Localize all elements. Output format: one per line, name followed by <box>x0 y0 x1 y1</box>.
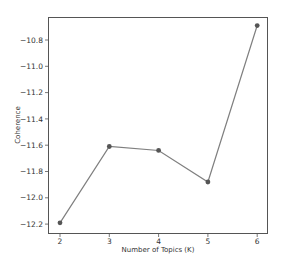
y-tick-label: −12.0 <box>20 193 43 202</box>
line-chart: −10.8−11.0−11.2−11.4−11.6−11.8−12.0−12.2… <box>0 0 283 264</box>
y-tick-label: −11.2 <box>20 88 43 97</box>
y-axis-label: Coherence <box>14 106 22 144</box>
y-tick-label: −11.4 <box>20 115 43 124</box>
x-tick-label: 2 <box>58 237 63 246</box>
x-tick-label: 3 <box>107 237 112 246</box>
x-tick-label: 6 <box>255 237 260 246</box>
x-tick-label: 5 <box>206 237 211 246</box>
y-tick-label: −12.2 <box>20 220 43 229</box>
data-point <box>156 148 161 153</box>
x-tick-label: 4 <box>156 237 161 246</box>
data-point <box>206 180 211 185</box>
y-tick-label: −11.8 <box>20 167 43 176</box>
plot-frame <box>49 18 268 234</box>
data-point <box>255 23 260 28</box>
coherence-line <box>60 26 257 223</box>
y-tick-label: −11.6 <box>20 141 43 150</box>
x-axis-ticks: 23456 <box>58 234 260 247</box>
x-axis-label: Number of Topics (K) <box>122 246 195 254</box>
data-point <box>58 220 63 225</box>
data-point <box>107 144 112 149</box>
y-tick-label: −11.0 <box>20 62 43 71</box>
y-axis-ticks: −10.8−11.0−11.2−11.4−11.6−11.8−12.0−12.2 <box>20 36 48 229</box>
data-point-markers <box>58 23 260 225</box>
y-tick-label: −10.8 <box>20 36 43 45</box>
